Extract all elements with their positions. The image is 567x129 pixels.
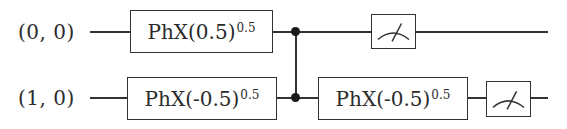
cz-connector-line	[295, 32, 297, 98]
qubit-label-0: (0, 0)	[18, 22, 75, 42]
gate-label: PhX(-0.5)	[336, 87, 431, 111]
meter-icon	[372, 15, 415, 48]
gate-label: PhX(-0.5)	[145, 87, 240, 111]
phx-gate-q1-second[interactable]: PhX(-0.5)0.5	[318, 77, 468, 120]
measure-gate-q0[interactable]	[371, 14, 416, 49]
gate-label: PhX(0.5)	[147, 20, 235, 44]
phx-gate-q1[interactable]: PhX(-0.5)0.5	[127, 77, 277, 120]
qubit-label-1: (1, 0)	[18, 88, 75, 108]
measure-gate-q1[interactable]	[486, 81, 531, 117]
meter-icon	[487, 82, 530, 116]
control-dot-icon	[291, 27, 300, 36]
control-dot-icon	[291, 93, 300, 102]
phx-gate-q0[interactable]: PhX(0.5)0.5	[130, 10, 273, 53]
